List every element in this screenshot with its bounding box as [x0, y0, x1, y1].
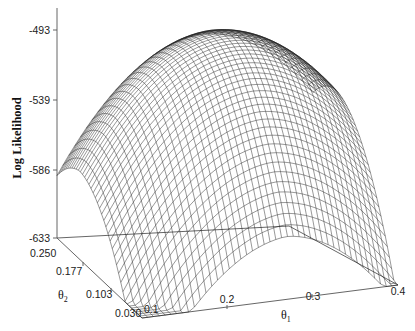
- theta1-axis-title: θ1: [281, 308, 291, 324]
- surface-plot: -493 -539 -586 -633 0.250 0.177 0.103 0.…: [0, 0, 415, 331]
- theta2-tick-label: 0.103: [86, 288, 112, 300]
- theta2-axis-title: θ2: [58, 288, 68, 304]
- z-axis-title: Log Likelihood: [10, 97, 24, 179]
- back-floor-line-right: [289, 226, 398, 285]
- back-floor-line-left: [57, 226, 289, 238]
- theta2-tick-label: 0.030: [115, 307, 141, 319]
- theta2-tick-label: 0.177: [56, 265, 82, 277]
- likelihood-surface-mesh: [57, 30, 398, 319]
- theta1-tick-label: 0.2: [220, 293, 235, 305]
- mesh-lines: [57, 30, 398, 319]
- theta1-tick-label: 0.3: [306, 290, 321, 302]
- z-ticks: [53, 30, 57, 238]
- z-tick-label: -633: [29, 232, 50, 244]
- theta1-tick-label: 0.1: [144, 303, 159, 315]
- z-tick-label: -493: [29, 24, 50, 36]
- theta2-tick-label: 0.250: [30, 247, 56, 259]
- z-tick-label: -539: [29, 94, 50, 106]
- z-tick-label: -586: [29, 164, 50, 176]
- axes: [57, 8, 398, 318]
- theta1-tick-label: 0.4: [391, 285, 406, 297]
